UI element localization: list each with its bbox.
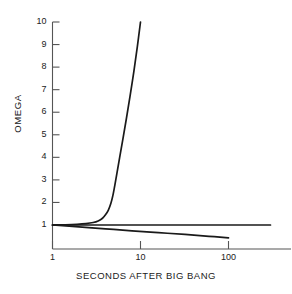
data-series [53, 22, 271, 238]
x-tick-label: 1 [38, 253, 68, 262]
x-tick-label: 100 [214, 253, 244, 262]
y-tick-label: 9 [27, 40, 47, 49]
x-axis-title: SECONDS AFTER BIG BANG [0, 270, 292, 281]
y-tick-label: 4 [27, 152, 47, 161]
y-tick-label: 3 [27, 175, 47, 184]
y-tick-label: 10 [27, 17, 47, 26]
y-tick-label: 5 [27, 130, 47, 139]
y-tick-label: 6 [27, 107, 47, 116]
series-line-open-universe [53, 225, 229, 238]
y-tick-label: 8 [27, 62, 47, 71]
x-tick-label: 10 [126, 253, 156, 262]
series-line-closed-universe [53, 22, 141, 225]
y-axis-title: OMEGA [12, 84, 23, 144]
y-tick-label: 1 [27, 220, 47, 229]
y-tick-label: 2 [27, 197, 47, 206]
axes [53, 22, 292, 249]
omega-vs-time-chart: OMEGA SECONDS AFTER BIG BANG 12345678910… [0, 0, 292, 294]
y-tick-label: 7 [27, 85, 47, 94]
